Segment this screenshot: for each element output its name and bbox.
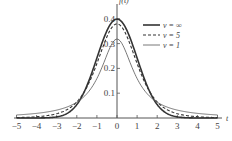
legend-label: ν = 5 (163, 31, 180, 40)
x-tick-label: 5 (215, 121, 220, 131)
x-tick-label: −3 (52, 121, 62, 131)
legend-label: ν = ∞ (163, 21, 182, 30)
x-tick-label: −2 (72, 121, 82, 131)
x-tick-label: 4 (195, 121, 200, 131)
x-tick-label: 1 (135, 121, 140, 131)
x-tick-label: 0 (115, 121, 120, 131)
y-tick-label: 0.2 (104, 63, 115, 73)
x-tick-label: 2 (155, 121, 160, 131)
x-tick-label: 3 (175, 121, 180, 131)
y-tick-label: 0.1 (104, 88, 115, 98)
x-axis-label: t (226, 114, 229, 123)
x-tick-label: −4 (32, 121, 42, 131)
y-tick-label: 0.4 (104, 14, 116, 24)
y-axis-label: f(t) (119, 0, 129, 5)
x-tick-label: −5 (12, 121, 22, 131)
t-distribution-chart: tf(t)−5−4−3−2−10123450.10.20.30.4ν = ∞ν … (0, 0, 232, 141)
x-tick-label: −1 (92, 121, 102, 131)
legend-label: ν = 1 (163, 41, 180, 50)
